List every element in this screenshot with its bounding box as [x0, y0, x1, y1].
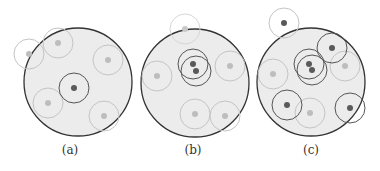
node-dot — [306, 61, 312, 67]
node-dot — [193, 68, 199, 74]
panel-a — [14, 28, 132, 136]
panel-a-caption: (a) — [62, 143, 79, 157]
node-dot — [222, 113, 228, 119]
node-dot — [347, 105, 353, 111]
node-dot — [309, 67, 315, 73]
node-dot — [71, 85, 77, 91]
panel-b — [141, 14, 249, 137]
panel-b-caption: (b) — [184, 143, 201, 157]
node-dot — [45, 100, 51, 106]
node-dot — [182, 26, 188, 32]
node-dot — [227, 63, 233, 69]
node-dot — [55, 40, 61, 46]
node-dot — [192, 111, 198, 117]
panel-c — [257, 8, 365, 136]
node-dot — [154, 73, 160, 79]
node-dot — [270, 71, 276, 77]
node-dot — [329, 45, 335, 51]
node-dot — [105, 57, 111, 63]
node-dot — [190, 61, 196, 67]
coverage-disk — [257, 28, 365, 136]
node-dot — [307, 110, 313, 116]
node-dot — [101, 113, 107, 119]
panel-c-caption: (c) — [303, 143, 319, 157]
node-dot — [26, 51, 32, 57]
node-dot — [284, 102, 290, 108]
node-dot — [342, 63, 348, 69]
node-dot — [281, 20, 287, 26]
coverage-disk — [141, 29, 249, 137]
